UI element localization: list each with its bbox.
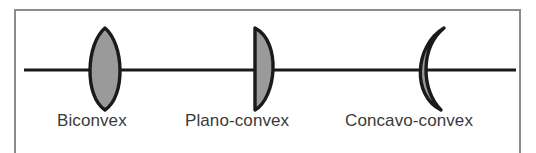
lens-shape-biconvex [90,28,120,110]
lens-label-concavo-convex: Concavo-convex [345,111,473,131]
lens-shape-plano-convex [255,28,273,110]
lens-label-plano-convex: Plano-convex [185,111,289,131]
lens-label-biconvex: Biconvex [57,111,127,131]
lens-types-figure: Biconvex Plano-convex Concavo-convex [0,0,536,153]
